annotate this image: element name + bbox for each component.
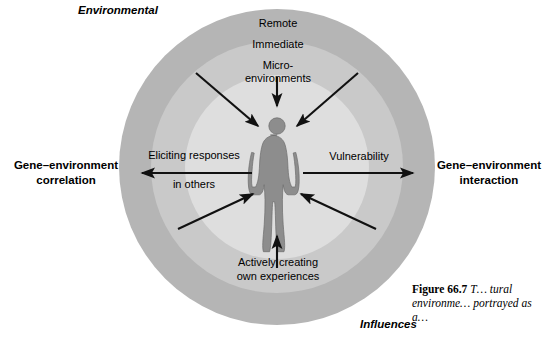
- label-gene-environment-correlation-line2: correlation: [2, 174, 130, 188]
- label-micro-environments-line2: environments: [235, 72, 321, 85]
- label-influences: Influences: [360, 318, 417, 332]
- label-actively-creating-line1: Actively creating: [224, 256, 332, 269]
- figure-caption: Figure 66.7 T… tural environme… portraye…: [412, 282, 547, 324]
- label-immediate: Immediate: [240, 38, 316, 51]
- label-gene-environment-correlation-line1: Gene–environment: [2, 159, 130, 173]
- label-environmental: Environmental: [78, 4, 158, 18]
- caption-number: Figure 66.7: [412, 283, 467, 295]
- label-micro-environments-line1: Micro-: [235, 59, 321, 72]
- label-eliciting-responses-line1: Eliciting responses: [134, 149, 254, 162]
- label-gene-environment-interaction-line2: interaction: [425, 174, 553, 188]
- label-vulnerability: Vulnerability: [313, 150, 405, 163]
- label-actively-creating-line2: own experiences: [224, 270, 332, 283]
- label-eliciting-responses-line2: in others: [134, 178, 254, 191]
- label-remote: Remote: [248, 17, 308, 30]
- figure-container: Environmental Influences Remote Immediat…: [0, 0, 553, 338]
- label-gene-environment-interaction-line1: Gene–environment: [425, 159, 553, 173]
